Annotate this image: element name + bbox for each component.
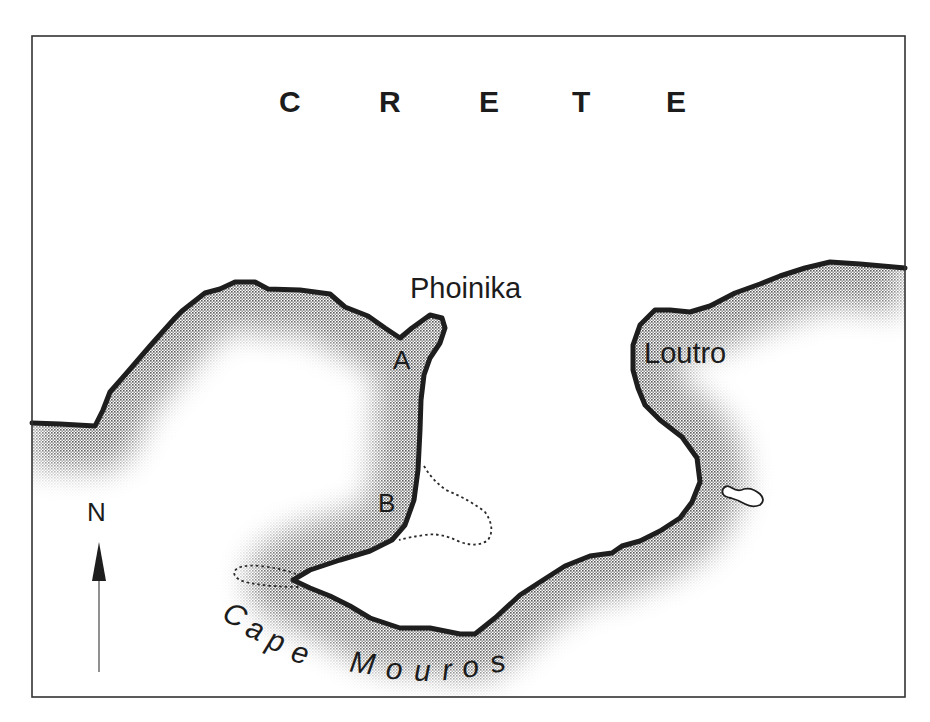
sea-shading [32, 36, 905, 697]
cape-label-letter: u [414, 654, 431, 688]
marker-a: A [393, 345, 410, 376]
place-label-loutro: Loutro [644, 337, 726, 370]
region-title-letter: E [666, 85, 686, 119]
marker-b: B [378, 488, 395, 519]
cape-label-letter: M [348, 644, 377, 681]
region-title-letter: E [479, 85, 499, 119]
place-label-phoinika: Phoinika [410, 272, 521, 305]
cape-label-letter: o [385, 651, 404, 686]
map-canvas [0, 0, 930, 722]
region-title-letter: T [572, 85, 590, 119]
region-title-letter: R [379, 85, 401, 119]
region-title-letter: C [279, 85, 301, 119]
north-label: N [87, 497, 106, 528]
